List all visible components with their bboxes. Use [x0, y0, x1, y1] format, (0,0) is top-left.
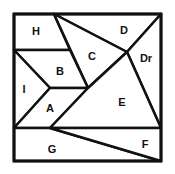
piece-label-f: F: [142, 138, 149, 150]
piece-label-d: D: [120, 24, 128, 36]
piece-label-h: H: [32, 25, 40, 37]
piece-label-i: I: [22, 83, 25, 95]
piece-label-e: E: [118, 96, 125, 108]
dissection-diagram: HDCDrBIAEGF: [0, 0, 175, 174]
piece-label-a: A: [46, 102, 54, 114]
piece-label-c: C: [88, 50, 96, 62]
piece-label-dr: Dr: [140, 52, 153, 64]
piece-label-g: G: [48, 143, 57, 155]
piece-label-b: B: [56, 65, 64, 77]
